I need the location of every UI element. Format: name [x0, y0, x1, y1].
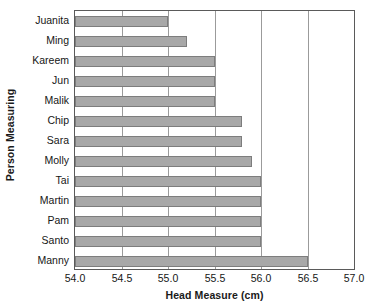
gridline [261, 11, 262, 269]
x-axis-tick-label: 56.0 [251, 272, 271, 284]
y-axis-tick-label: Pam [47, 214, 69, 226]
y-axis-tick-label: Tai [56, 174, 69, 186]
bar [75, 256, 308, 267]
bar [75, 216, 261, 227]
bar [75, 236, 261, 247]
x-axis-tick-label: 55.0 [158, 272, 178, 284]
bar-chart: Person Measuring JuanitaMingKareemJunMal… [0, 0, 382, 308]
y-axis-title-text: Person Measuring [4, 89, 16, 182]
bar [75, 116, 242, 127]
x-axis-tick-label: 57.0 [344, 272, 364, 284]
gridline [308, 11, 309, 269]
y-axis-tick-label: Sara [47, 134, 69, 146]
x-axis-tick-label: 56.5 [298, 272, 318, 284]
y-axis-tick-label: Manny [37, 254, 69, 266]
bar [75, 176, 261, 187]
bar [75, 136, 242, 147]
y-axis-tick-label: Martin [40, 194, 69, 206]
y-axis-tick-label: Molly [44, 154, 69, 166]
x-axis-title: Head Measure (cm) [74, 289, 355, 301]
bar [75, 36, 187, 47]
x-axis-tick-labels: 54.054.555.055.556.056.557.0 [74, 272, 355, 288]
x-axis-tick-label: 54.0 [65, 272, 85, 284]
y-axis-tick-label: Ming [46, 34, 69, 46]
y-axis-tick-label: Juanita [35, 14, 69, 26]
y-axis-tick-label: Santo [42, 234, 69, 246]
y-axis-tick-label: Kareem [32, 54, 69, 66]
bar [75, 196, 261, 207]
y-axis-tick-label: Jun [52, 74, 69, 86]
bar [75, 156, 252, 167]
y-axis-tick-labels: JuanitaMingKareemJunMalikChipSaraMollyTa… [18, 10, 72, 270]
y-axis-tick-label: Malik [44, 94, 69, 106]
plot-area [74, 10, 355, 270]
y-axis-title: Person Measuring [0, 0, 20, 270]
bar [75, 16, 168, 27]
x-axis-tick-label: 54.5 [112, 272, 132, 284]
bar [75, 96, 215, 107]
y-axis-tick-label: Chip [47, 114, 69, 126]
x-axis-tick-label: 55.5 [205, 272, 225, 284]
bar [75, 56, 215, 67]
bar [75, 76, 215, 87]
